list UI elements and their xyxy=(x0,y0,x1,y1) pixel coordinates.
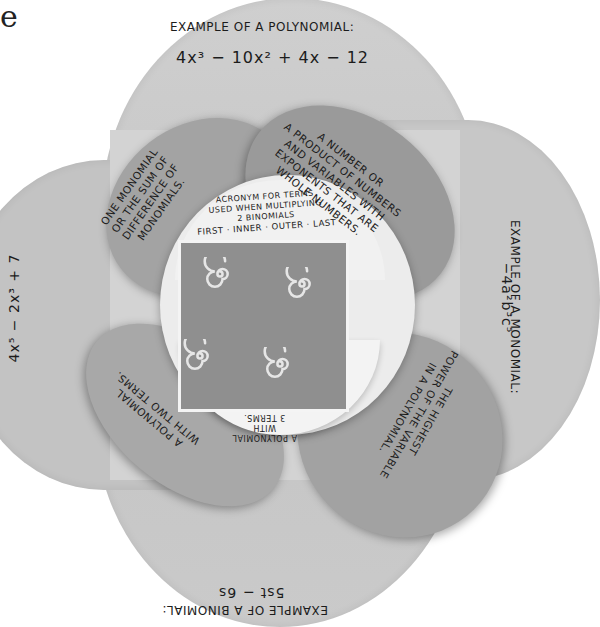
spiral-icon xyxy=(203,257,237,291)
bottom-flap-expression: 5st − 6s xyxy=(218,585,285,601)
top-flap-expression: 4x³ − 10x² + 4x − 12 xyxy=(176,48,369,67)
center-bottom-text: A POLYNOMIAL WITH 3 TERMS. xyxy=(232,412,297,442)
left-flap-expression: 4x⁵ − 2x³ + 7 xyxy=(6,254,22,363)
spiral-icon xyxy=(263,347,297,381)
top-flap-title: EXAMPLE OF A POLYNOMIAL: xyxy=(170,20,354,34)
spiral-icon xyxy=(183,339,217,373)
right-flap-expression: −4a²b³c⁵ xyxy=(499,263,515,334)
center-tile xyxy=(178,240,349,412)
bottom-flap-title: EXAMPLE OF A BINOMIAL: xyxy=(162,603,328,617)
spiral-icon xyxy=(285,267,319,301)
